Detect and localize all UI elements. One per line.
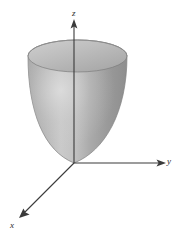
paraboloid-figure: z y x: [0, 0, 181, 251]
z-axis-label: z: [72, 9, 76, 18]
y-axis: [74, 160, 166, 167]
coordinate-surface-diagram: [0, 0, 181, 251]
x-axis: [19, 163, 74, 218]
y-axis-label: y: [167, 157, 171, 166]
x-axis-line: [25, 163, 74, 212]
x-axis-label: x: [10, 221, 14, 230]
paraboloid-top-rim: [28, 40, 127, 72]
x-axis-arrowhead: [19, 208, 30, 218]
